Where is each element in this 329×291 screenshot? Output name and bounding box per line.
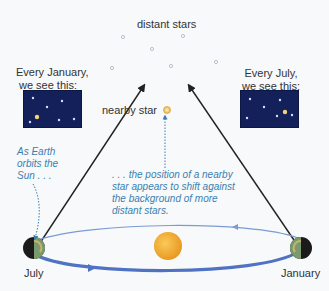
orbit-note-arrow: [33, 184, 39, 238]
distant-stars-label: distant stars: [137, 18, 196, 31]
distant-star-field: [110, 34, 217, 69]
january-label: January: [281, 267, 320, 280]
july-caption-line1: Every July,: [238, 67, 304, 80]
shift-note-line3: the background of more: [112, 193, 235, 205]
earth-july-icon: [23, 237, 45, 259]
orbit-note-line1: As Earth: [17, 146, 58, 158]
january-view-caption: Every January, we see this:: [16, 66, 80, 92]
shift-note-line2: star appears to shift against: [112, 181, 235, 193]
earth-january-icon: [290, 237, 312, 259]
parallax-shift-note: . . . the position of a nearby star appe…: [112, 169, 235, 217]
july-sky-stars: [241, 91, 298, 127]
nearby-star-label: nearby star: [102, 104, 157, 117]
sun-icon: [154, 232, 182, 260]
july-label: July: [24, 267, 44, 280]
shift-note-line1: . . . the position of a nearby: [112, 169, 235, 181]
orbit-note-line2: orbits the: [17, 158, 58, 170]
nearby-star-icon: [164, 107, 171, 114]
shift-note-line4: distant stars.: [112, 205, 235, 217]
january-sky-stars: [24, 91, 81, 127]
july-sky-inset: [240, 90, 299, 128]
january-sky-inset: [23, 90, 82, 128]
orbit-note-line3: Sun . . .: [17, 170, 58, 182]
earth-orbit-note: As Earth orbits the Sun . . .: [17, 146, 58, 182]
january-caption-line1: Every January,: [16, 66, 80, 79]
